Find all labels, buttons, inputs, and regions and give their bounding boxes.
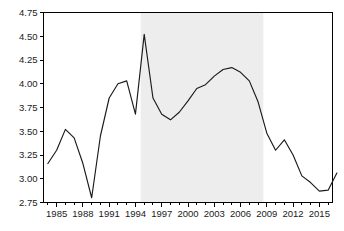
y-tick-label: 4.00 [19, 78, 38, 89]
y-tick-label: 3.25 [19, 149, 38, 160]
y-tick-label: 4.50 [19, 31, 38, 42]
y-tick-label: 4.25 [19, 54, 38, 65]
y-tick-label: 3.75 [19, 102, 38, 113]
x-tick-label: 1991 [99, 208, 120, 219]
x-tick-label: 1994 [125, 208, 146, 219]
x-tick-label: 1988 [72, 208, 93, 219]
x-tick-label: 1997 [151, 208, 172, 219]
x-tick-label: 2012 [283, 208, 304, 219]
y-tick-label: 4.75 [19, 7, 38, 18]
x-tick-label: 1985 [46, 208, 67, 219]
y-tick-label: 3.00 [19, 173, 38, 184]
line-chart: 2.753.003.253.503.754.004.254.504.75 198… [0, 0, 344, 231]
x-tick-label: 2009 [256, 208, 277, 219]
y-axis-labels: 2.753.003.253.503.754.004.254.504.75 [19, 7, 38, 208]
x-axis-labels: 1985198819911994199720002003200620092012… [46, 208, 330, 219]
x-tick-label: 2006 [230, 208, 251, 219]
y-tick-label: 3.50 [19, 126, 38, 137]
x-tick-label: 2000 [177, 208, 198, 219]
x-tick-label: 2003 [204, 208, 225, 219]
y-tick-label: 2.75 [19, 197, 38, 208]
highlight-band [141, 13, 264, 203]
x-tick-label: 2015 [309, 208, 330, 219]
chart-container: 2.753.003.253.503.754.004.254.504.75 198… [0, 0, 344, 231]
